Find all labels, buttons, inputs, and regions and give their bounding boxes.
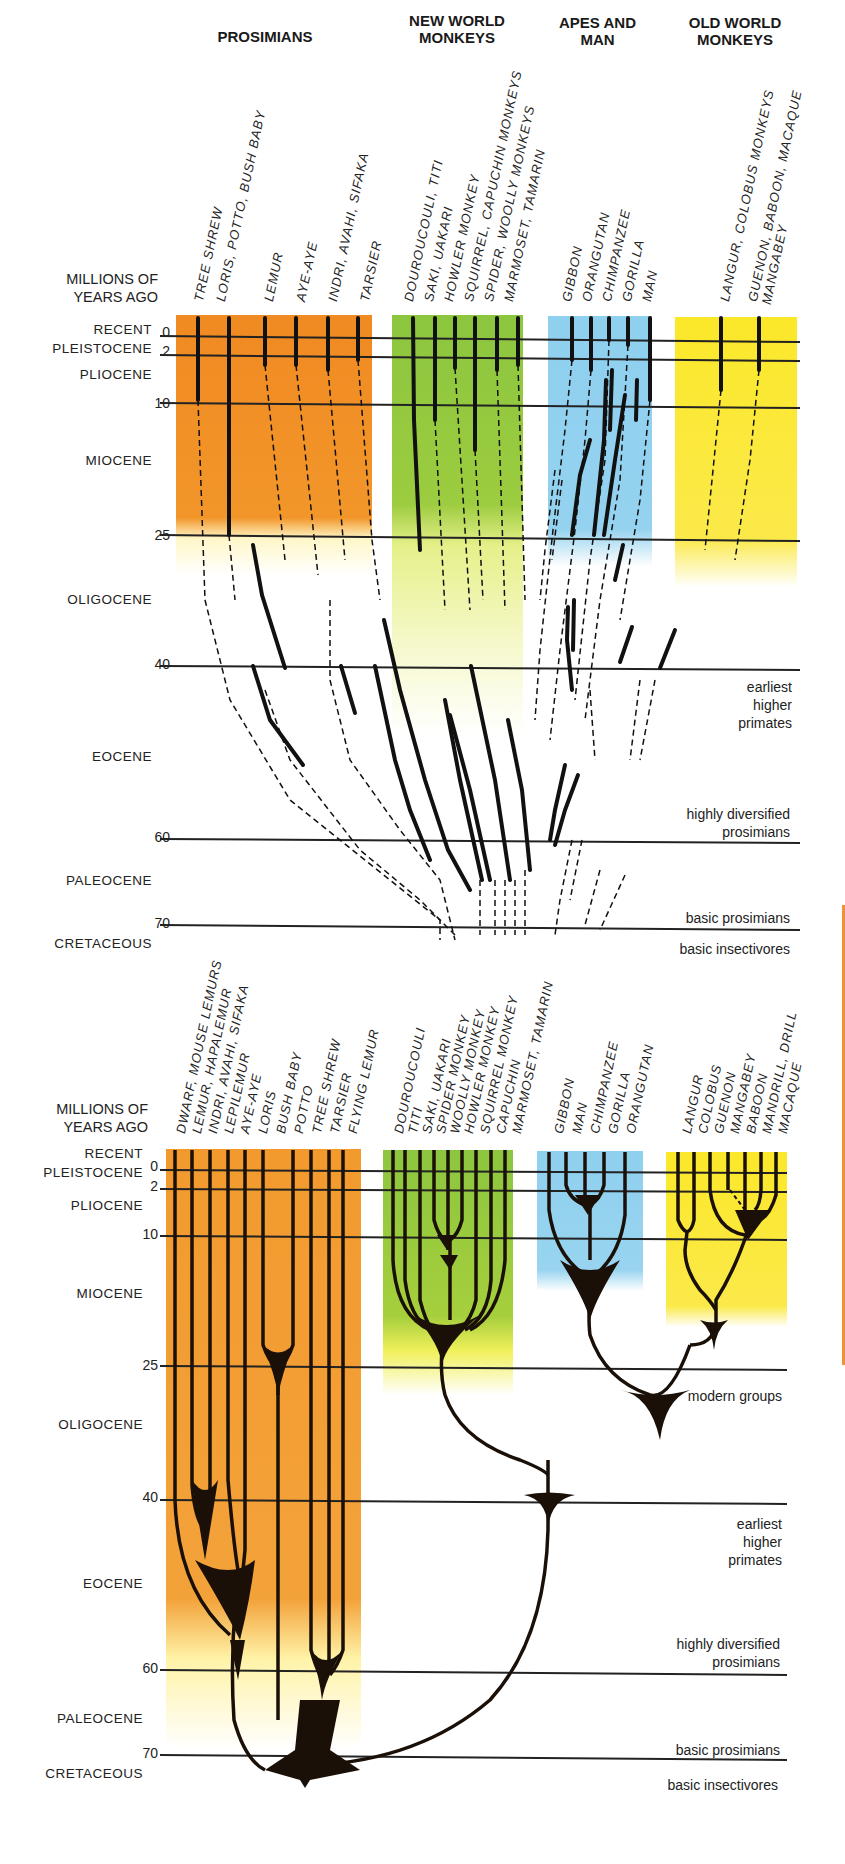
bottom-tree-graphic xyxy=(0,0,845,1864)
